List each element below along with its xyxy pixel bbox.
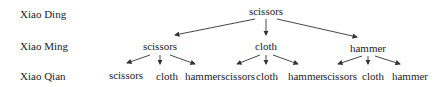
leaf-node: hammer bbox=[288, 70, 324, 82]
leaf-node: cloth bbox=[362, 70, 384, 82]
leaf-node: scissors bbox=[109, 69, 143, 81]
level1-node-hammer: hammer bbox=[350, 42, 386, 54]
leaf-node: hammer bbox=[392, 70, 428, 82]
row-label-xiao-qian: Xiao Qian bbox=[20, 70, 66, 82]
root-node: scissors bbox=[249, 5, 283, 17]
leaf-node: scissors bbox=[323, 70, 357, 82]
level1-node-scissors: scissors bbox=[143, 40, 177, 52]
row-label-xiao-ding: Xiao Ding bbox=[20, 8, 66, 20]
row-label-xiao-ming: Xiao Ming bbox=[20, 40, 68, 52]
leaf-node: cloth bbox=[256, 70, 278, 82]
leaf-node: hammer bbox=[185, 70, 221, 82]
level1-node-cloth: cloth bbox=[255, 40, 277, 52]
leaf-node: cloth bbox=[156, 70, 178, 82]
leaf-node: scissors bbox=[221, 70, 255, 82]
game-tree-diagram: Xiao Ding Xiao Ming Xiao Qian scissors s… bbox=[0, 0, 439, 87]
